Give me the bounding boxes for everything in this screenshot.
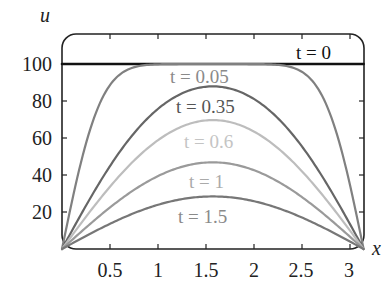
x-tick-label: 3: [344, 259, 354, 281]
label-t005: t = 0.05: [170, 66, 229, 87]
label-t0: t = 0: [296, 42, 331, 63]
label-t1: t = 1: [189, 171, 224, 192]
y-tick-label: 80: [32, 90, 52, 112]
y-tick-label: 20: [32, 201, 52, 223]
x-tick-label: 1: [153, 259, 163, 281]
x-axis-label: x: [371, 237, 381, 259]
heat-equation-chart: u x 0.5 1 1.5 2 2.5 3 20 40 60 80 100 t …: [0, 0, 390, 296]
y-tick-label: 100: [22, 53, 52, 75]
x-tick-label: 0.5: [98, 259, 123, 281]
y-tick-label: 60: [32, 127, 52, 149]
y-axis-label: u: [40, 4, 50, 26]
y-tick-label: 40: [32, 164, 52, 186]
label-t15: t = 1.5: [178, 206, 227, 227]
label-t035: t = 0.35: [176, 96, 235, 117]
x-tick-label: 2: [249, 259, 259, 281]
x-tick-label: 2.5: [289, 259, 314, 281]
label-t06: t = 0.6: [184, 131, 233, 152]
x-tick-label: 1.5: [194, 259, 219, 281]
